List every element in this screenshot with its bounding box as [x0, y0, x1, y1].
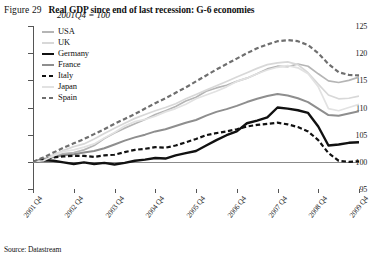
legend-item-japan[interactable]: Japan	[42, 81, 89, 92]
figure-subtitle: 2001Q4 = 100	[57, 10, 110, 20]
x-tick-label: 2009 Q4	[347, 194, 370, 220]
x-tick	[196, 189, 197, 193]
x-tick-label: 2005 Q4	[184, 194, 207, 220]
legend-item-spain[interactable]: Spain	[42, 92, 89, 103]
x-tick	[278, 189, 279, 193]
x-tick-label: 2003 Q4	[103, 194, 126, 220]
legend-label: Japan	[58, 81, 77, 92]
figure-number: Figure 29	[4, 5, 42, 15]
series-line-germany	[33, 108, 359, 165]
x-tick-label: 2007 Q4	[266, 194, 289, 220]
legend-label: UK	[58, 37, 70, 48]
source-note: Source: Datastream	[4, 245, 61, 254]
x-tick	[359, 189, 360, 193]
legend-item-uk[interactable]: UK	[42, 37, 89, 48]
legend-label: France	[58, 59, 81, 70]
series-line-italy	[33, 123, 359, 162]
legend-item-usa[interactable]: USA	[42, 26, 89, 37]
legend-item-italy[interactable]: Italy	[42, 70, 89, 81]
x-tick-label: 2002 Q4	[62, 194, 85, 220]
chart-legend: USAUKGermanyFranceItalyJapanSpain	[42, 26, 89, 103]
legend-item-germany[interactable]: Germany	[42, 48, 89, 59]
x-tick	[74, 189, 75, 193]
x-tick-label: 2004 Q4	[144, 194, 167, 220]
x-tick	[115, 189, 116, 193]
x-tick-label: 2006 Q4	[225, 194, 248, 220]
legend-label: Germany	[58, 48, 89, 59]
x-tick	[318, 189, 319, 193]
legend-label: Spain	[58, 92, 77, 103]
x-tick	[237, 189, 238, 193]
legend-label: USA	[58, 26, 75, 37]
x-tick	[155, 189, 156, 193]
legend-item-france[interactable]: France	[42, 59, 89, 70]
figure-heading: Figure 29Real GDP since end of last rece…	[4, 0, 254, 17]
x-tick-label: 2001 Q4	[21, 194, 44, 220]
x-tick-label: 2008 Q4	[307, 194, 330, 220]
legend-label: Italy	[58, 70, 73, 81]
x-tick	[33, 189, 34, 193]
